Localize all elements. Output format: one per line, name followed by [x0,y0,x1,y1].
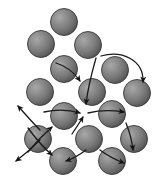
sphere-body [102,57,129,84]
sphere-body [27,79,54,106]
sphere-row2-right [75,32,102,59]
sphere-body [51,9,78,36]
sphere-body [75,32,102,59]
caption-stub [4,175,64,182]
sphere-row6-right [121,126,148,153]
sphere-body [51,103,78,130]
sphere-body [124,80,151,107]
sphere-row2-left [28,31,55,58]
sphere-body [50,148,77,175]
sphere-body [121,126,148,153]
sphere-body [76,126,103,153]
sphere-lattice-figure [0,0,159,183]
sphere-top-center [51,9,78,36]
diagram-canvas [0,0,159,183]
sphere-row4-far-left [27,79,54,106]
sphere-body [99,101,126,128]
sphere-body [79,79,106,106]
sphere-row4-center [79,79,106,106]
sphere-row7-left [50,148,77,175]
sphere-body [28,31,55,58]
sphere-body [51,56,78,83]
sphere-row3-right [102,57,129,84]
sphere-row5-left [51,103,78,130]
sphere-row4-right [124,80,151,107]
sphere-row5-center [99,101,126,128]
sphere-row6-center [76,126,103,153]
sphere-row3-left [51,56,78,83]
